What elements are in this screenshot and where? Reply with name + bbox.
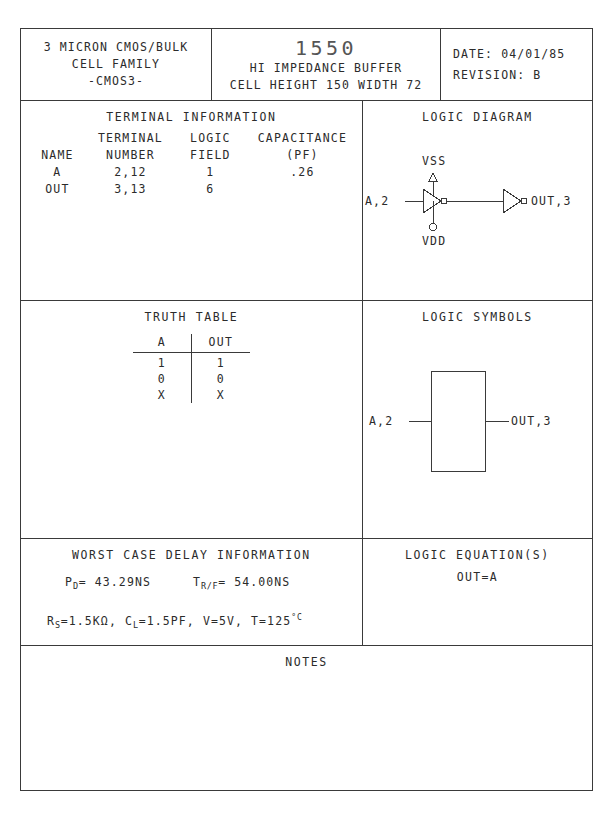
cell-truth-output: 0 [191,371,250,387]
family-line-2: CELL FAMILY [72,56,160,73]
part-geometry: CELL HEIGHT 150 WIDTH 72 [230,77,423,94]
family-line-1: 3 MICRON CMOS/BULK [44,39,188,56]
cl-symbol: C [125,614,133,628]
th-logic: LOGIC [172,130,248,147]
logic-diagram-panel: LOGIC DIAGRAM VSS A,2 VDD [363,101,592,300]
output-buffer-triangle-icon [503,189,521,213]
vdd-label: VDD [422,234,446,248]
vss-label: VSS [422,154,446,168]
th-truth-output: OUT [191,334,250,353]
vss-arrow-icon [429,173,437,181]
rs-value: =1.5KΩ, [61,614,117,628]
delay-information-panel: WORST CASE DELAY INFORMATION PD= 43.29NS… [21,539,363,645]
delay-and-equation-row: WORST CASE DELAY INFORMATION PD= 43.29NS… [21,539,592,646]
logic-equation-text: OUT=A [363,562,592,584]
symbol-output-label: OUT,3 [511,414,552,428]
cell-truth-input: 1 [133,353,192,372]
th-terminal: TERMINAL [88,130,172,147]
cell-logic-field: 6 [172,181,248,198]
cell-terminal-number: 2,12 [88,164,172,181]
part-number: 1550 [295,36,357,60]
th-truth-input: A [133,334,192,353]
pd-symbol: P [65,575,73,589]
logic-equation-panel: LOGIC EQUATION(S) OUT=A [363,539,592,645]
vdd-circle-icon [429,224,436,231]
pd-value: = 43.29NS [79,575,151,589]
cell-truth-output: 1 [191,353,250,372]
table-row: 1 1 [133,353,250,372]
rs-symbol: R [47,614,55,628]
th-blank [26,130,88,147]
logic-equation-title: LOGIC EQUATION(S) [363,539,592,562]
cell-truth-input: X [133,387,192,403]
part-description: HI IMPEDANCE BUFFER [250,60,402,77]
table-row: A 2,12 1 .26 [26,164,356,181]
cell-terminal-name: A [26,164,88,181]
table-row: OUT 3,13 6 [26,181,356,198]
datasheet-frame: 3 MICRON CMOS/BULK CELL FAMILY -CMOS3- 1… [20,28,593,791]
symbol-body-rect [431,371,485,471]
header-row: 3 MICRON CMOS/BULK CELL FAMILY -CMOS3- 1… [21,29,592,101]
th-field: FIELD [172,147,248,164]
trf-value: = 54.00NS [218,575,290,589]
truth-table-title: TRUTH TABLE [21,301,362,324]
voltage-condition: V=5V, [203,614,243,628]
cell-logic-field: 1 [172,164,248,181]
family-line-3: -CMOS3- [88,73,144,90]
truth-table-panel: TRUTH TABLE A OUT 1 1 0 0 [21,301,363,538]
logic-diagram-title: LOGIC DIAGRAM [363,101,592,124]
terminal-and-diagram-row: TERMINAL INFORMATION TERMINAL LOGIC CAPA… [21,101,592,301]
cell-capacitance [248,181,356,198]
cell-truth-input: 0 [133,371,192,387]
cell-terminal-number: 3,13 [88,181,172,198]
header-cell-part: 1550 HI IMPEDANCE BUFFER CELL HEIGHT 150… [212,29,441,100]
notes-row: NOTES [21,646,592,790]
table-header-row-1: TERMINAL LOGIC CAPACITANCE [26,130,356,147]
table-header-row-2: NAME NUMBER FIELD (PF) [26,147,356,164]
terminal-information-table: TERMINAL LOGIC CAPACITANCE NAME NUMBER F… [26,130,356,198]
notes-title: NOTES [21,646,592,669]
table-row: X X [133,387,250,403]
revision-label: REVISION: B [453,65,541,86]
header-cell-family: 3 MICRON CMOS/BULK CELL FAMILY -CMOS3- [21,29,212,100]
logic-symbols-panel: LOGIC SYMBOLS A,2 OUT,3 [363,301,592,538]
date-label: DATE: 04/01/85 [453,44,565,65]
trf-subscript: R/F [201,581,218,591]
logic-symbols-figure: A,2 OUT,3 [363,323,593,533]
input-label: A,2 [365,194,389,208]
th-number: NUMBER [88,147,172,164]
logic-symbols-title: LOGIC SYMBOLS [363,301,592,324]
temperature-condition: T=125 [251,614,291,628]
table-row: 0 0 [133,371,250,387]
terminal-information-title: TERMINAL INFORMATION [21,101,362,124]
cl-value: =1.5PF, [139,614,195,628]
temperature-unit: °C [291,613,303,622]
th-cap-units: (PF) [248,147,356,164]
cell-capacitance: .26 [248,164,356,181]
terminal-information-panel: TERMINAL INFORMATION TERMINAL LOGIC CAPA… [21,101,363,300]
truth-header-row: A OUT [133,334,250,353]
inverter-triangle-icon [423,189,441,213]
cell-truth-output: X [191,387,250,403]
cell-terminal-name: OUT [26,181,88,198]
header-cell-date: DATE: 04/01/85 REVISION: B [441,29,592,100]
output-label: OUT,3 [531,194,572,208]
truth-and-symbols-row: TRUTH TABLE A OUT 1 1 0 0 [21,301,592,539]
delay-conditions-line: RS=1.5KΩ, CL=1.5PF, V=5V, T=125°C [47,613,303,630]
th-name: NAME [26,147,88,164]
delay-information-title: WORST CASE DELAY INFORMATION [21,539,362,562]
trf-symbol: T [193,575,201,589]
logic-diagram-figure: VSS A,2 VDD OUT,3 [363,123,593,293]
delay-primary-line: PD= 43.29NSTR/F= 54.00NS [65,575,290,591]
truth-table-grid: A OUT 1 1 0 0 X X [133,334,250,403]
th-capacitance: CAPACITANCE [248,130,356,147]
symbol-input-label: A,2 [369,414,393,428]
